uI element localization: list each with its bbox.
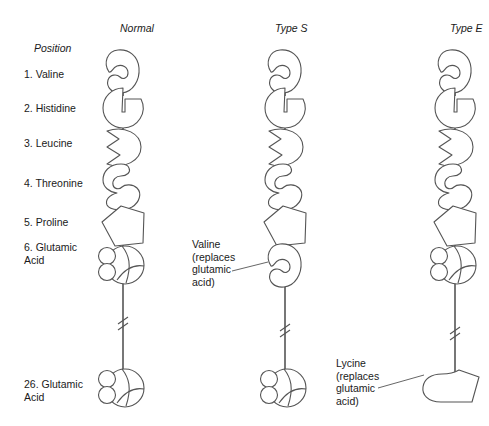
residue-s-3-leucine bbox=[269, 129, 303, 166]
residue-normal-6-glutamic-acid bbox=[99, 246, 145, 284]
chain-type-s bbox=[232, 50, 306, 407]
leader-line-type-s-valine bbox=[232, 262, 268, 271]
residue-normal-5-proline bbox=[102, 206, 144, 246]
residue-s-26-glutamic-acid bbox=[261, 369, 307, 407]
residue-normal-2-histidine bbox=[103, 88, 143, 128]
leader-line-type-e-lycine bbox=[378, 375, 424, 388]
chain-type-e bbox=[378, 50, 479, 402]
residue-s-5-proline bbox=[264, 206, 306, 246]
residue-normal-4-threonine bbox=[103, 164, 140, 210]
residue-e-2-histidine bbox=[435, 88, 475, 128]
residue-e-5-proline bbox=[434, 206, 476, 246]
residue-s-6-valine-substitution bbox=[268, 244, 301, 287]
residue-e-3-leucine bbox=[439, 129, 473, 166]
residue-normal-1-valine bbox=[106, 50, 139, 93]
amino-acid-sequence-diagram bbox=[0, 0, 489, 426]
residue-s-1-valine bbox=[268, 50, 301, 93]
residue-e-1-valine bbox=[438, 50, 471, 93]
residue-s-2-histidine bbox=[265, 88, 305, 128]
residue-e-6-glutamic-acid bbox=[431, 246, 477, 284]
residue-e-4-threonine bbox=[435, 164, 472, 210]
chain-normal bbox=[99, 50, 145, 407]
residue-s-4-threonine bbox=[265, 164, 302, 210]
residue-e-26-lycine-substitution bbox=[423, 370, 479, 402]
residue-normal-3-leucine bbox=[107, 129, 141, 166]
residue-normal-26-glutamic-acid bbox=[99, 369, 145, 407]
